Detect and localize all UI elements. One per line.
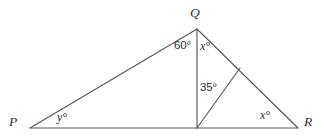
vertex-label-Q: Q (190, 6, 200, 20)
angle-label-p: y° (57, 111, 67, 123)
figure-canvas (0, 0, 321, 137)
angle-label-qst: 35° (200, 82, 217, 94)
segment-side-PQ (30, 29, 197, 128)
segment-side-QR (197, 29, 298, 128)
segment-cevian-ST (197, 68, 240, 128)
angle-label-r: x° (260, 109, 270, 121)
vertex-label-R: R (304, 115, 312, 129)
angle-label-sqr: x° (200, 40, 210, 52)
vertex-label-P: P (9, 115, 17, 129)
angle-label-pqs: 60° (174, 40, 191, 52)
geometry-figure: Q P R 60° x° 35° y° x° (0, 0, 321, 137)
